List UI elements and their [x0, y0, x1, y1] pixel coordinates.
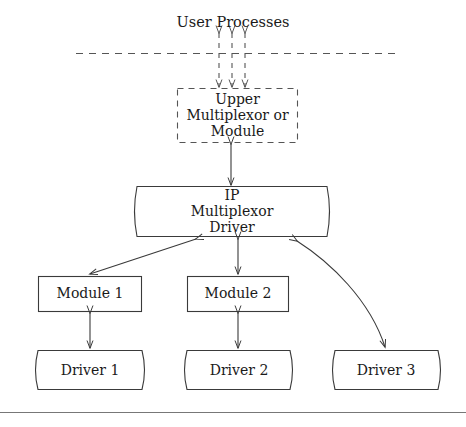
node-driver1-box — [36, 351, 145, 390]
connector-ip-to-module1 — [90, 239, 196, 274]
node-driver3-box — [333, 351, 441, 390]
connector-user-to-upper — [219, 33, 245, 87]
node-upper-multiplexor-box — [178, 89, 298, 143]
diagram-canvas: User Processes Upper Multiplexor or Modu… — [0, 0, 466, 427]
node-ip-multiplexor-driver-box — [135, 187, 330, 237]
node-module2-box — [188, 277, 289, 312]
connector-ip-to-driver3 — [297, 241, 385, 347]
diagram-vector-layer — [0, 0, 466, 427]
node-driver2-box — [185, 351, 293, 390]
node-module1-box — [39, 277, 142, 312]
